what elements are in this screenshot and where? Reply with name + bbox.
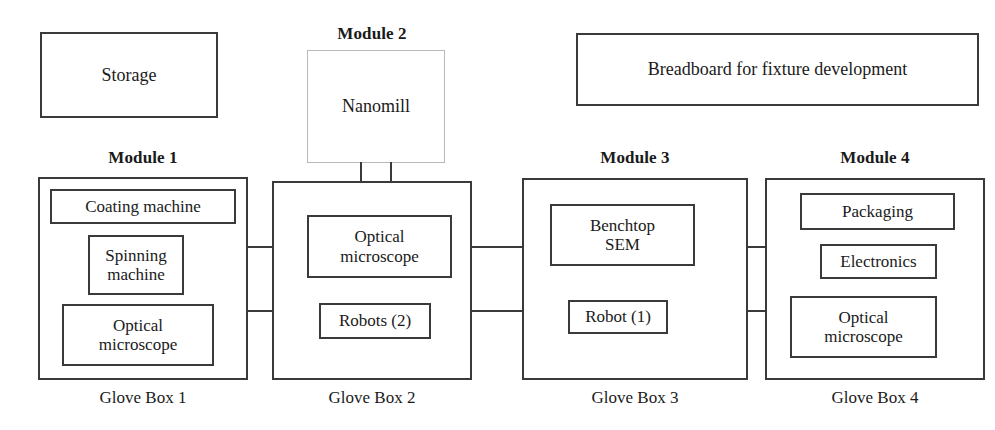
connector-gb2-gb3-top [470,246,524,248]
module-2-item-optical-microscope: Optical microscope [307,215,452,278]
connector-gb3-gb4 [746,246,767,312]
glove-box-1: Coating machine Spinning machine Optical… [38,177,248,380]
glove-box-4-caption: Glove Box 4 [765,388,985,408]
connector-gb2-gb3 [470,246,524,312]
connector-gb2-gb3-bottom [470,310,524,312]
connector-gb1-gb2-top [246,246,274,248]
storage-label: Storage [102,65,157,85]
module-1-item-coating-machine-label: Coating machine [85,197,201,216]
glove-box-3: Benchtop SEM Robot (1) [522,178,748,380]
module-4-item-optical-microscope-label: Optical microscope [824,308,902,346]
module-1-item-spinning-machine-label: Spinning machine [105,246,166,284]
module-4-item-electronics: Electronics [820,244,937,279]
module-1-item-spinning-machine: Spinning machine [88,235,184,295]
glove-box-2-caption: Glove Box 2 [272,388,472,408]
module-2-item-optical-microscope-label: Optical microscope [340,227,418,265]
module-4-item-optical-microscope: Optical microscope [790,296,937,358]
module-1-title: Module 1 [38,148,248,168]
module-2-title: Module 2 [272,24,472,44]
glove-box-3-caption: Glove Box 3 [522,388,748,408]
connector-gb1-gb2 [246,246,274,312]
module-1-item-coating-machine: Coating machine [50,189,236,224]
breadboard-label: Breadboard for fixture development [648,59,907,79]
nanomill-box: Nanomill [307,50,445,163]
module-4-title: Module 4 [765,148,985,168]
module-3-title: Module 3 [522,148,748,168]
module-2-item-robots-label: Robots (2) [339,311,411,330]
connector-nanomill-gb2 [360,162,392,182]
connector-gb3-gb4-bottom [746,310,767,312]
connector-gb3-gb4-top [746,246,767,248]
module-3-item-benchtop-sem: Benchtop SEM [550,204,695,266]
module-2-item-robots: Robots (2) [319,303,431,339]
module-1-item-optical-microscope-label: Optical microscope [99,316,177,354]
module-4-item-packaging-label: Packaging [842,202,913,221]
storage-box: Storage [40,32,218,118]
module-1-item-optical-microscope: Optical microscope [62,304,214,366]
connector-nanomill-gb2-right [390,162,392,182]
connector-nanomill-gb2-left [360,162,362,182]
module-3-item-robot-label: Robot (1) [585,307,651,326]
nanomill-label: Nanomill [342,96,410,116]
connector-gb1-gb2-bottom [246,310,274,312]
glove-box-2: Optical microscope Robots (2) [272,181,472,380]
modular-glovebox-diagram: Storage Breadboard for fixture developme… [0,0,995,430]
module-4-item-packaging: Packaging [800,193,955,230]
breadboard-box: Breadboard for fixture development [576,33,979,106]
module-4-item-electronics-label: Electronics [840,252,916,271]
module-3-item-robot: Robot (1) [568,300,668,334]
module-3-item-benchtop-sem-label: Benchtop SEM [590,216,655,254]
glove-box-1-caption: Glove Box 1 [38,388,248,408]
glove-box-4: Packaging Electronics Optical microscope [765,178,985,380]
